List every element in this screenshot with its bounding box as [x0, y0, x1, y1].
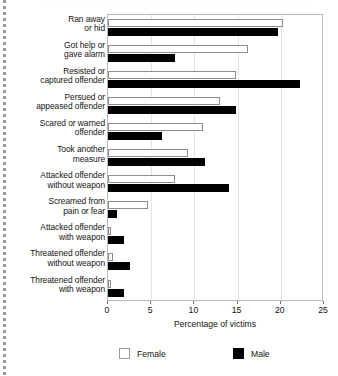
x-axis-tick-label: 0: [105, 305, 110, 315]
x-axis-tick-label: 15: [232, 305, 242, 315]
legend-swatch-male: [233, 348, 244, 359]
bar-group: [108, 253, 322, 279]
bar-group: [108, 19, 322, 45]
x-axis: 0510152025: [107, 301, 323, 317]
bar-female: [108, 123, 203, 131]
legend-item-female[interactable]: Female: [119, 348, 166, 359]
x-axis-tick: [237, 301, 238, 304]
bar-female: [108, 149, 188, 157]
category-label: Scared or warnedoffender: [8, 119, 105, 138]
bar-female: [108, 71, 236, 79]
category-label: Threatened offenderwith weapon: [8, 276, 105, 295]
category-label: Persued orappeased offender: [8, 93, 105, 112]
bar-female: [108, 175, 175, 183]
category-label: Attacked offenderwithout weapon: [8, 171, 105, 190]
bar-female: [108, 227, 111, 235]
bar-male: [108, 184, 229, 192]
bar-male: [108, 289, 124, 297]
category-label: Threatened offenderwithout weapon: [8, 249, 105, 268]
bar-group: [108, 45, 322, 71]
x-axis-tick-label: 25: [318, 305, 328, 315]
bar-male: [108, 158, 205, 166]
bar-group: [108, 123, 322, 149]
category-label: Resisted orcaptured offender: [8, 67, 105, 86]
legend-swatch-female: [119, 348, 130, 359]
x-axis-tick: [150, 301, 151, 304]
x-axis-tick: [107, 301, 108, 304]
bar-male: [108, 132, 162, 140]
bar-group: [108, 201, 322, 227]
chart-legend: FemaleMale: [107, 348, 323, 366]
category-label: Got help orgave alarm: [8, 41, 105, 60]
bar-male: [108, 210, 117, 218]
bar-male: [108, 28, 278, 36]
bar-female: [108, 45, 248, 53]
category-label: Screamed frompain or fear: [8, 197, 105, 216]
x-axis-tick-label: 5: [148, 305, 153, 315]
bar-male: [108, 106, 236, 114]
bar-male: [108, 80, 300, 88]
plot-area: [107, 14, 323, 301]
legend-label: Male: [251, 349, 270, 359]
bar-female: [108, 97, 220, 105]
bar-female: [108, 201, 148, 209]
x-axis-tick: [323, 301, 324, 304]
bar-group: [108, 227, 322, 253]
category-axis-labels: Ran awayor hidGot help orgave alarmResis…: [8, 14, 105, 301]
bar-female: [108, 280, 111, 288]
bar-male: [108, 54, 175, 62]
bar-group: [108, 175, 322, 201]
bar-female: [108, 19, 283, 27]
x-axis-tick-label: 10: [189, 305, 199, 315]
x-axis-tick: [280, 301, 281, 304]
legend-item-male[interactable]: Male: [233, 348, 270, 359]
category-label: Ran awayor hid: [8, 15, 105, 34]
category-label: Took anothermeasure: [8, 145, 105, 164]
bar-group: [108, 149, 322, 175]
bar-male: [108, 262, 130, 270]
bar-female: [108, 253, 113, 261]
x-axis-tick-label: 20: [275, 305, 285, 315]
x-axis-tick: [193, 301, 194, 304]
x-axis-title: Percentage of victims: [107, 319, 323, 329]
bar-male: [108, 236, 124, 244]
bar-group: [108, 71, 322, 97]
bar-group: [108, 97, 322, 123]
grouped-bar-chart: Ran awayor hidGot help orgave alarmResis…: [0, 0, 338, 376]
category-label: Attacked offenderwith weapon: [8, 223, 105, 242]
legend-label: Female: [137, 349, 166, 359]
